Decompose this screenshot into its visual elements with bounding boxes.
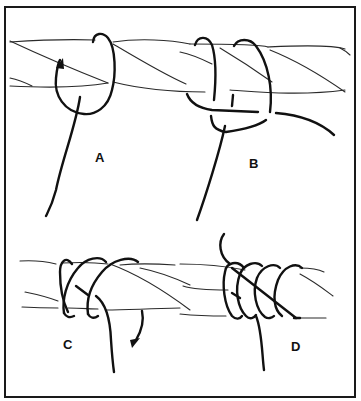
panel-label-a: A [95, 150, 105, 165]
panel-label-d: D [291, 339, 300, 354]
panel-label-b: B [249, 156, 258, 171]
panel-c: C [60, 258, 143, 372]
panel-b: B [187, 38, 334, 220]
knot-diagram: A B [0, 0, 361, 401]
arrow-icon [130, 338, 140, 348]
panel-d: D [220, 234, 302, 370]
panel-label-c: C [63, 337, 73, 352]
